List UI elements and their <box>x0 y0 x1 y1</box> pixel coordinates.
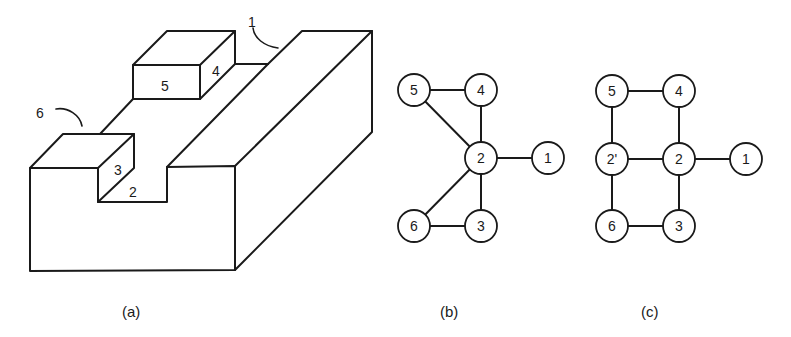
node-b-6-label: 6 <box>410 218 418 234</box>
face-label-6: 6 <box>36 105 44 121</box>
node-c-1-label: 1 <box>742 151 750 167</box>
face-label-5: 5 <box>161 78 169 94</box>
panel-a-solid <box>30 28 372 271</box>
node-b-4-label: 4 <box>477 82 485 98</box>
caption-c: (c) <box>641 303 659 320</box>
caption-a: (a) <box>122 303 140 320</box>
face-label-1: 1 <box>248 14 256 30</box>
figure: 1 2 3 4 5 6 (a) 5 4 2 1 6 3 (b) <box>0 0 791 337</box>
caption-b: (b) <box>440 303 458 320</box>
face-label-3: 3 <box>114 162 122 178</box>
node-c-4-label: 4 <box>675 83 683 99</box>
node-c-6-label: 6 <box>608 218 616 234</box>
node-b-5-label: 5 <box>410 82 418 98</box>
face-label-4: 4 <box>212 63 220 79</box>
face-label-2: 2 <box>129 184 137 200</box>
node-c-3-label: 3 <box>675 218 683 234</box>
node-b-2-label: 2 <box>477 150 485 166</box>
node-c-2prime-label: 2' <box>607 151 617 167</box>
node-b-1-label: 1 <box>544 150 552 166</box>
node-b-3-label: 3 <box>477 218 485 234</box>
node-c-2-label: 2 <box>675 151 683 167</box>
node-c-5-label: 5 <box>608 83 616 99</box>
